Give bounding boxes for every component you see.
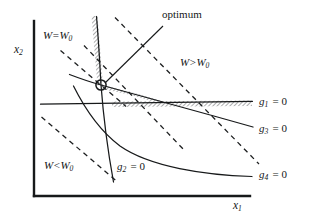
contour-label-w-equal-w0: W=W0	[43, 30, 72, 42]
contour-label-w-greater-w0: W>W0	[180, 57, 209, 69]
constraint-label-g4: g4 = 0	[259, 169, 288, 181]
contour-label-w-less-w0: W<W0	[44, 160, 73, 172]
constraint-label-g1: g1 = 0	[259, 96, 288, 108]
contour-w-greater-upper	[115, 18, 259, 165]
optimum-pointer-line	[105, 26, 163, 83]
optimum-label: optimum	[162, 9, 202, 20]
constraint-label-g2: g2 = 0	[117, 161, 146, 173]
figure-canvas: x2 x1 optimum W=W0 W>W0 W<W0 g1 = 0 g3 =…	[0, 0, 310, 223]
y-axis-label: x2	[14, 44, 23, 56]
constraint-label-g3: g3 = 0	[259, 123, 288, 135]
x-axis-label: x1	[233, 200, 242, 212]
curve-g4	[74, 86, 253, 177]
